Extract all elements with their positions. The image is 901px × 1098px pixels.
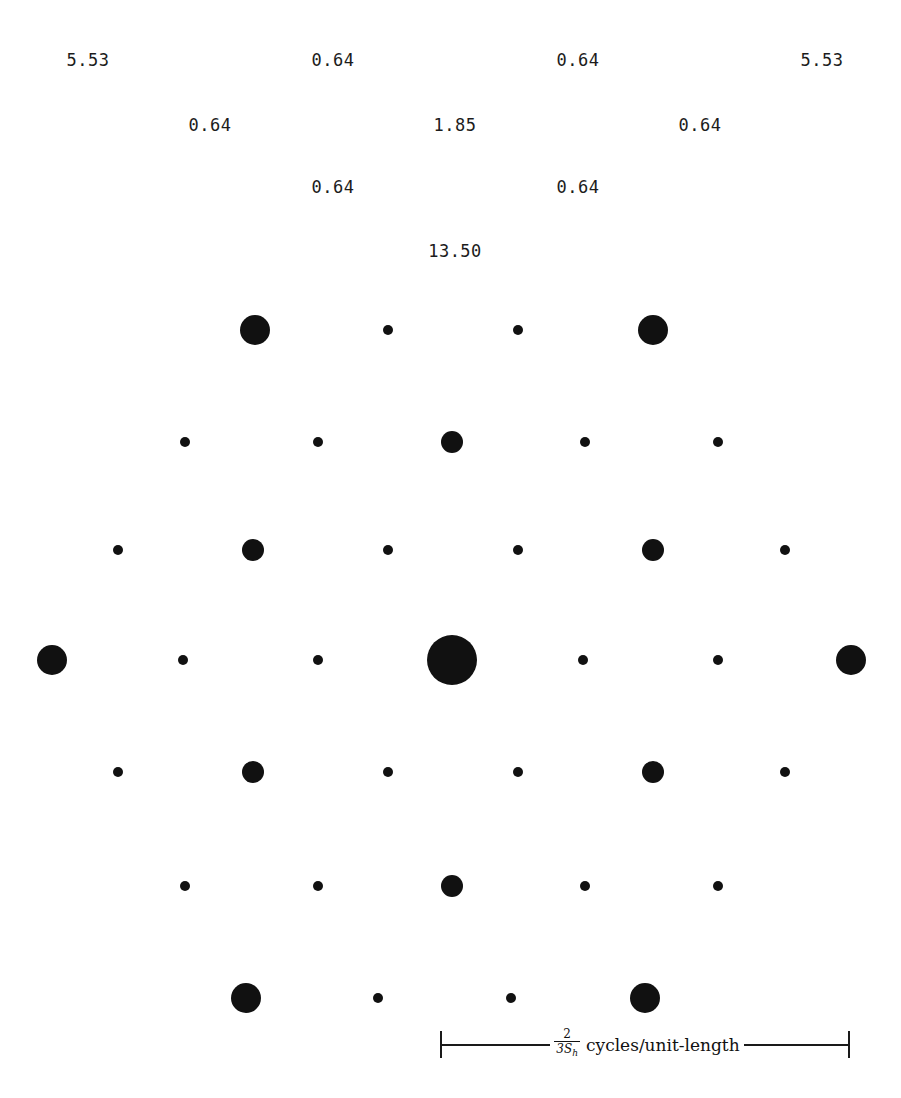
lattice-dot	[713, 881, 723, 891]
lattice-dot	[836, 645, 866, 675]
magnitude-label: 0.64	[679, 117, 722, 134]
magnitude-label: 5.53	[801, 52, 844, 69]
magnitude-label: 1.85	[434, 117, 477, 134]
lattice-dot	[441, 431, 463, 453]
lattice-dot	[427, 635, 477, 685]
scale-bar-caption: 2 3Sh cycles/unit-length	[550, 1031, 744, 1058]
lattice-dot	[178, 655, 188, 665]
lattice-dot	[713, 655, 723, 665]
lattice-dot	[780, 767, 790, 777]
lattice-dot	[642, 761, 664, 783]
denominator-base: 3S	[556, 1042, 572, 1056]
magnitude-label: 13.50	[428, 243, 482, 260]
scale-bar: 2 3Sh cycles/unit-length	[440, 1031, 850, 1059]
lattice-dot	[513, 325, 523, 335]
scale-bar-fraction: 2 3Sh	[554, 1028, 580, 1058]
lattice-dot	[313, 655, 323, 665]
lattice-dot	[441, 875, 463, 897]
lattice-dot	[37, 645, 67, 675]
lattice-dot	[506, 993, 516, 1003]
lattice-dot	[383, 325, 393, 335]
fraction-denominator: 3Sh	[554, 1042, 580, 1058]
scale-bar-right-rule	[744, 1044, 848, 1046]
lattice-dot	[383, 545, 393, 555]
lattice-dot	[313, 881, 323, 891]
magnitude-label: 0.64	[312, 52, 355, 69]
lattice-dot	[180, 437, 190, 447]
magnitude-label: 0.64	[557, 52, 600, 69]
lattice-dot	[580, 437, 590, 447]
scale-bar-right-tick	[848, 1031, 850, 1058]
lattice-dot	[113, 767, 123, 777]
scale-bar-left-rule	[442, 1044, 550, 1046]
lattice-dot	[231, 983, 261, 1013]
denominator-subscript: h	[572, 1049, 578, 1059]
lattice-dot	[638, 315, 668, 345]
lattice-dot	[713, 437, 723, 447]
spectrum-figure: 5.530.640.645.530.641.850.640.640.6413.5…	[0, 0, 901, 1098]
magnitude-label: 0.64	[189, 117, 232, 134]
lattice-dot	[383, 767, 393, 777]
lattice-dot	[780, 545, 790, 555]
lattice-dot	[113, 545, 123, 555]
lattice-dot	[580, 881, 590, 891]
scale-bar-units: cycles/unit-length	[586, 1035, 740, 1055]
magnitude-label: 0.64	[557, 179, 600, 196]
lattice-dot	[373, 993, 383, 1003]
lattice-dot	[313, 437, 323, 447]
lattice-dot	[180, 881, 190, 891]
lattice-dot	[240, 315, 270, 345]
magnitude-label: 0.64	[312, 179, 355, 196]
lattice-dot	[513, 767, 523, 777]
lattice-dot	[242, 539, 264, 561]
magnitude-label: 5.53	[67, 52, 110, 69]
lattice-dot	[242, 761, 264, 783]
lattice-dot	[642, 539, 664, 561]
fraction-numerator: 2	[561, 1028, 573, 1041]
lattice-dot	[513, 545, 523, 555]
lattice-dot	[630, 983, 660, 1013]
lattice-dot	[578, 655, 588, 665]
